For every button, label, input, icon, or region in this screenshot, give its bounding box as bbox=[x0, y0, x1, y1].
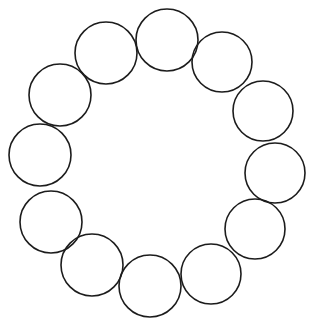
ring-circle-8 bbox=[181, 244, 241, 304]
ring-circle-5 bbox=[20, 191, 82, 253]
ring-circle-3 bbox=[29, 64, 91, 126]
ring-circle-12 bbox=[192, 32, 252, 92]
ring-of-circles bbox=[0, 0, 315, 329]
ring-circle-10 bbox=[245, 143, 305, 203]
ring-circle-4 bbox=[9, 124, 71, 186]
ring-circle-6 bbox=[61, 234, 123, 296]
ring-circle-9 bbox=[225, 199, 285, 259]
ring-circle-7 bbox=[119, 255, 181, 317]
ring-circle-11 bbox=[233, 81, 293, 141]
diagram-canvas bbox=[0, 0, 315, 329]
ring-circle-1 bbox=[136, 9, 198, 71]
